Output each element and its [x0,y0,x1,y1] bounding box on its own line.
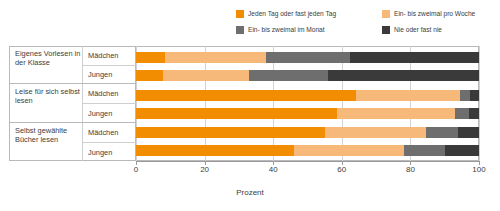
group-rows-leise-fuer-sich: Mädchen Jungen [82,84,136,122]
legend-swatch-nie-oder-fast-nie [382,26,390,34]
row-label-leise-fuer-sich-jungen: Jungen [83,103,136,122]
bar-segment [356,90,461,101]
bar-segment [328,70,479,81]
legend-item-ein-bis-zweimal-pro-woche: Ein- bis zweimal pro Woche [382,6,494,22]
bar-row [136,70,479,81]
bar-row [136,52,479,63]
row-label-eigenes-vorlesen-maedchen: Mädchen [83,46,136,65]
x-axis-tick-label-0: 0 [134,165,138,174]
x-axis-tick-label-100: 100 [472,165,485,174]
stacked-bar-chart: Eigenes Vorlesen in der Klasse Mädchen J… [9,46,479,161]
bar-segment [294,145,404,156]
x-axis: 020406080100 [136,161,479,173]
group-leise-fuer-sich: Leise für sich selbst lesen Mädchen Jung… [9,83,136,122]
gridline-40 [273,46,274,161]
bar-segment [445,145,479,156]
x-axis-title: Prozent [0,188,500,197]
row-label-selbst-gewaehlte-buecher-jungen: Jungen [83,142,136,161]
gridline-0 [136,46,137,161]
bar-segment [458,127,479,138]
bar-segment [426,127,459,138]
bar-row [136,145,479,156]
plot-area [136,46,479,161]
bar-segment [136,108,337,119]
group-rows-selbst-gewaehlte-buecher: Mädchen Jungen [82,123,136,161]
x-axis-tick-label-40: 40 [269,165,278,174]
group-title-selbst-gewaehlte-buecher: Selbst gewählte Bücher lesen [9,123,82,161]
legend-item-jeden-tag: Jeden Tag oder fast jeden Tag [236,6,382,22]
group-selbst-gewaehlte-buecher: Selbst gewählte Bücher lesen Mädchen Jun… [9,122,136,161]
gridline-100 [479,46,480,161]
bar-segment [470,90,479,101]
legend-label-ein-bis-zweimal-pro-woche: Ein- bis zweimal pro Woche [394,10,475,18]
gridline-60 [342,46,343,161]
bar-segment [136,52,165,63]
legend-swatch-ein-bis-zweimal-im-monat [236,26,244,34]
row-label-eigenes-vorlesen-jungen: Jungen [83,65,136,84]
bar-segment [469,108,479,119]
bar-segment [136,145,294,156]
x-axis-line [136,161,479,162]
bar-segment [325,127,426,138]
bar-segment [136,90,356,101]
bar-segment [460,90,470,101]
x-axis-tick-label-80: 80 [406,165,415,174]
bar-segment [266,52,350,63]
bar-row [136,90,479,101]
bar-segment [404,145,445,156]
legend-label-jeden-tag: Jeden Tag oder fast jeden Tag [248,10,336,18]
bar-row [136,127,479,138]
legend-item-ein-bis-zweimal-im-monat: Ein- bis zweimal im Monat [236,22,382,38]
bar-segment [337,108,455,119]
legend-label-nie-oder-fast-nie: Nie oder fast nie [394,26,442,34]
bar-row [136,108,479,119]
gridline-80 [410,46,411,161]
legend-swatch-jeden-tag [236,10,244,18]
legend-swatch-ein-bis-zweimal-pro-woche [382,10,390,18]
category-label-table: Eigenes Vorlesen in der Klasse Mädchen J… [9,46,136,161]
bar-segment [136,70,163,81]
bar-segment [249,70,328,81]
row-label-leise-fuer-sich-maedchen: Mädchen [83,84,136,103]
bar-segment [455,108,469,119]
legend-label-ein-bis-zweimal-im-monat: Ein- bis zweimal im Monat [248,26,325,34]
bar-segment [350,52,479,63]
group-rows-eigenes-vorlesen: Mädchen Jungen [82,46,136,83]
legend-item-nie-oder-fast-nie: Nie oder fast nie [382,22,494,38]
chart-legend: Jeden Tag oder fast jeden Tag Ein- bis z… [236,6,494,38]
group-title-leise-fuer-sich: Leise für sich selbst lesen [9,84,82,122]
bar-segment [163,70,249,81]
group-title-eigenes-vorlesen: Eigenes Vorlesen in der Klasse [9,46,82,83]
row-label-selbst-gewaehlte-buecher-maedchen: Mädchen [83,123,136,142]
x-axis-tick-label-60: 60 [337,165,346,174]
bar-segment [165,52,266,63]
group-eigenes-vorlesen: Eigenes Vorlesen in der Klasse Mädchen J… [9,46,136,83]
gridline-20 [205,46,206,161]
x-axis-tick-label-20: 20 [200,165,209,174]
bar-segment [136,127,325,138]
